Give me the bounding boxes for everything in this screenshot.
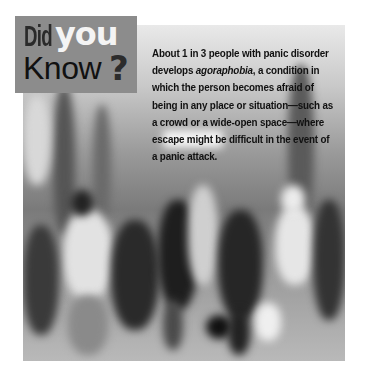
did-you-know-badge: Did you Know ? [15, 16, 137, 93]
fact-paragraph: About 1 in 3 people with panic disorder … [152, 45, 333, 165]
callout-word-did: Did [24, 21, 52, 51]
callout-word-know: Know [23, 50, 101, 86]
photo-person [111, 220, 159, 330]
photo-person [275, 205, 315, 285]
photo-legs [68, 295, 108, 355]
photo-legs [163, 300, 183, 350]
question-mark-icon: ? [109, 50, 129, 86]
photo-person [63, 210, 113, 300]
photo-window [23, 95, 51, 185]
photo-person [281, 185, 305, 213]
photo-pillar [53, 85, 75, 235]
photo-person [188, 185, 218, 285]
photo-legs [228, 310, 250, 355]
photo-pillar [93, 105, 111, 225]
photo-person [71, 190, 93, 216]
photo-bag [255, 303, 281, 341]
photo-person [23, 225, 59, 335]
photo-person [218, 210, 263, 320]
fact-term: agoraphobia [196, 64, 253, 76]
callout-word-you: you [55, 17, 118, 51]
fact-text-after: , a condition in which the person become… [152, 64, 333, 162]
photo-person [313, 200, 345, 320]
